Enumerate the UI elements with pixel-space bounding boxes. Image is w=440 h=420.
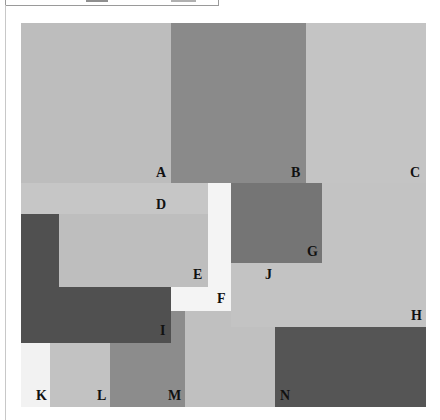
label-A: A <box>156 166 166 180</box>
region-N <box>275 327 426 407</box>
label-D: D <box>156 198 166 212</box>
region-E <box>59 214 208 287</box>
label-H: H <box>411 309 422 323</box>
label-B: B <box>291 166 300 180</box>
region-I-lower <box>21 287 171 343</box>
label-G: G <box>307 245 318 259</box>
label-E: E <box>193 268 202 282</box>
label-N: N <box>280 389 290 403</box>
label-C: C <box>410 166 420 180</box>
region-A <box>21 23 171 183</box>
label-F: F <box>217 292 226 306</box>
region-B <box>171 23 306 183</box>
top-frame-fragment <box>5 0 219 6</box>
left-frame-line <box>5 5 6 420</box>
region-D <box>21 183 208 214</box>
label-M: M <box>168 389 181 403</box>
label-J: J <box>265 268 272 282</box>
frame-fragment-mark <box>86 0 108 2</box>
label-I: I <box>160 324 165 338</box>
frame-fragment-swatch <box>171 0 196 2</box>
region-C <box>306 23 426 183</box>
region-M <box>171 311 185 343</box>
label-L: L <box>97 389 106 403</box>
label-K: K <box>36 389 47 403</box>
